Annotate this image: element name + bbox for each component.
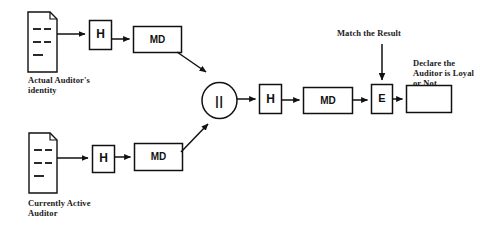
box-hash-mid — [260, 85, 282, 114]
caption-current-auditor-line1: Currently Active — [28, 198, 91, 208]
box-md-top — [134, 27, 182, 53]
document-shape-current-auditor — [29, 133, 57, 193]
caption-actual-auditor-line1: Actual Auditor's — [28, 75, 90, 85]
annotation-declare-line1: Declare the — [413, 58, 455, 68]
box-md-mid — [304, 88, 353, 114]
annotation-declare-line3: or Not — [413, 78, 437, 88]
annotation-declare-line2: Auditor is Loyal — [413, 68, 474, 78]
box-md-bottom — [135, 144, 183, 171]
document-shape-actual-auditor — [28, 12, 57, 72]
ellipse-concat — [202, 83, 237, 119]
arrow-md-top-to-concat — [177, 52, 206, 72]
flowchart-diagram: H MD H MD || H MD E Actual Auditor's ide… — [0, 0, 499, 232]
box-encrypt — [372, 85, 393, 114]
box-hash-bottom — [93, 146, 115, 173]
caption-actual-auditor-line2: identity — [28, 85, 57, 95]
box-hash-top — [90, 21, 112, 50]
box-result — [407, 86, 452, 113]
annotation-match-the-result: Match the Result — [337, 28, 401, 38]
caption-current-auditor-line2: Auditor — [28, 208, 58, 218]
arrow-md-bottom-to-concat — [181, 124, 208, 152]
